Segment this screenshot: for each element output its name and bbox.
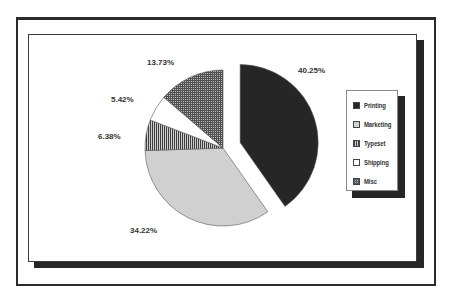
- legend-label: Printing: [364, 102, 386, 109]
- label-typeset: 6.38%: [98, 132, 121, 141]
- chart-canvas: 40.25% 34.22% 6.38% 5.42% 13.73% Printin…: [0, 0, 451, 295]
- label-printing: 40.25%: [298, 66, 325, 75]
- label-shipping: 5.42%: [111, 95, 134, 104]
- legend-item-misc: Misc: [353, 176, 379, 186]
- legend-label: Typeset: [364, 140, 385, 147]
- legend-label: Marketing: [364, 121, 391, 128]
- swatch-icon: [353, 140, 360, 147]
- legend-label: Shipping: [364, 159, 389, 166]
- swatch-icon: [353, 102, 360, 109]
- legend-item-shipping: Shipping: [353, 157, 393, 167]
- swatch-icon: [353, 159, 360, 166]
- pie-slice-marketing: [145, 148, 268, 226]
- label-misc: 13.73%: [147, 58, 174, 67]
- swatch-icon: [353, 121, 360, 128]
- legend-item-typeset: Typeset: [353, 138, 389, 148]
- legend-label: Misc: [364, 178, 377, 185]
- swatch-icon: [353, 178, 360, 185]
- legend-item-printing: Printing: [353, 100, 390, 110]
- legend: Printing Marketing Typeset Shipping Misc: [346, 90, 398, 191]
- pie-slice-printing: [240, 65, 318, 207]
- legend-item-marketing: Marketing: [353, 119, 396, 129]
- label-marketing: 34.22%: [130, 226, 157, 235]
- pie-slices: [145, 65, 318, 226]
